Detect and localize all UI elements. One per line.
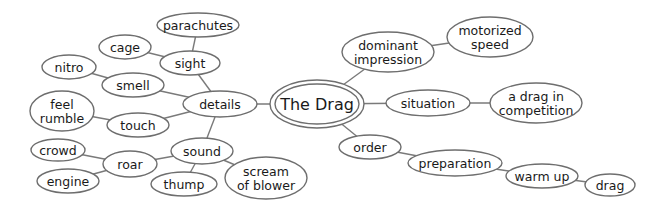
node-label: smell (116, 78, 149, 93)
node-label: parachutes (163, 18, 233, 33)
node-label: touch (120, 118, 155, 133)
node-label: situation (401, 96, 455, 111)
node-situation: situation (386, 90, 470, 116)
node-warm-up: warm up (506, 164, 578, 188)
node-label: details (199, 97, 241, 112)
node-label: crowd (39, 143, 77, 158)
node-touch: touch (107, 113, 169, 137)
node-sight: sight (160, 51, 220, 75)
node-label: speed (471, 37, 509, 52)
node-label: sound (183, 144, 221, 159)
node-label: thump (164, 177, 205, 192)
node-details: details (183, 91, 257, 117)
node-label: drag (596, 178, 625, 193)
node-label: competition (499, 103, 574, 118)
node-crowd: crowd (31, 139, 85, 161)
node-label: rumble (40, 111, 85, 126)
node-label: engine (47, 174, 90, 189)
center-node-the-drag: The Drag (270, 80, 364, 128)
node-label: nitro (55, 60, 84, 75)
node-feel-rumble: feelrumble (30, 91, 94, 131)
node-engine: engine (37, 169, 99, 193)
mind-map-canvas: detailssightparachutescagesmellnitrotouc… (0, 0, 663, 208)
node-thump: thump (151, 172, 217, 196)
node-label: motorized (458, 23, 521, 38)
node-roar: roar (103, 151, 157, 177)
node-label: a drag in (508, 89, 564, 104)
node-a-drag-in-competition: a drag incompetition (490, 83, 582, 123)
node-smell: smell (102, 73, 164, 97)
node-label: impression (354, 52, 422, 67)
node-label: cage (110, 40, 140, 55)
node-scream-of-blower: screamof blower (225, 157, 307, 199)
node-label: scream (243, 164, 289, 179)
node-motorized-speed: motorizedspeed (447, 17, 533, 57)
node-label: dominant (358, 38, 418, 53)
node-label: feel (50, 97, 73, 112)
node-label: roar (117, 157, 143, 172)
node-label: sight (175, 56, 206, 71)
center-node-label: The Drag (279, 95, 354, 114)
node-drag: drag (585, 174, 635, 196)
node-sound: sound (171, 138, 233, 164)
node-label: of blower (237, 178, 296, 193)
node-cage: cage (99, 35, 151, 59)
node-label: preparation (419, 156, 492, 171)
node-preparation: preparation (408, 150, 502, 176)
node-dominant-impression: dominantimpression (342, 32, 434, 72)
node-parachutes: parachutes (157, 13, 239, 37)
node-label: order (353, 140, 387, 155)
node-order: order (339, 135, 401, 159)
node-label: warm up (515, 169, 570, 184)
node-nitro: nitro (42, 55, 96, 79)
